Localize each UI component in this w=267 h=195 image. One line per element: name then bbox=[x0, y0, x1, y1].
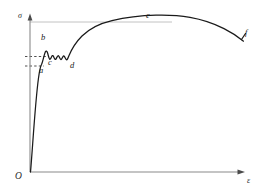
point-label-d: d bbox=[70, 61, 74, 70]
point-label-a: a bbox=[39, 66, 43, 75]
point-label-b: b bbox=[41, 33, 45, 42]
point-label-e: e bbox=[146, 11, 150, 20]
x-axis-label: ε bbox=[247, 177, 250, 185]
stress-strain-curve bbox=[31, 15, 244, 172]
origin-label: O bbox=[15, 172, 22, 182]
stress-strain-figure: σ ε O a b c d e f bbox=[0, 0, 267, 195]
y-axis-arrowhead bbox=[28, 14, 33, 21]
y-axis-label: σ bbox=[18, 12, 22, 20]
x-axis-arrowhead bbox=[238, 169, 246, 174]
figure-canvas bbox=[0, 0, 267, 195]
point-label-c: c bbox=[48, 58, 52, 67]
point-label-f: f bbox=[245, 28, 247, 37]
